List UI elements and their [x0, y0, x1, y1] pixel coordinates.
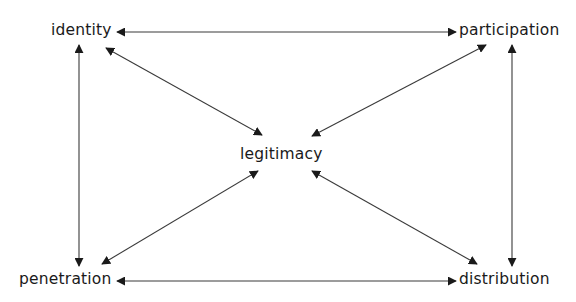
node-identity: identity: [51, 23, 112, 39]
node-participation: participation: [459, 23, 560, 39]
node-distribution: distribution: [459, 272, 550, 288]
edge-participation-legitimacy: [312, 45, 486, 136]
edge-identity-legitimacy: [106, 48, 262, 135]
edge-distribution-legitimacy: [312, 171, 477, 264]
node-penetration: penetration: [19, 272, 112, 288]
edge-penetration-legitimacy: [102, 171, 258, 264]
node-legitimacy: legitimacy: [240, 147, 323, 163]
diagram-canvas: identity participation legitimacy penetr…: [0, 0, 576, 302]
